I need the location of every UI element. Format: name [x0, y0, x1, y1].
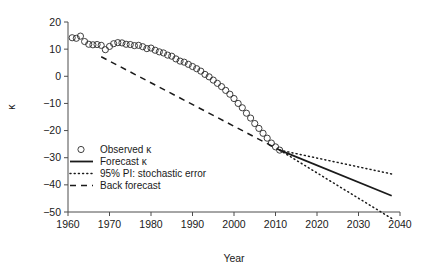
observed-point: [156, 49, 162, 55]
observed-point: [214, 80, 220, 86]
observed-point: [239, 105, 245, 111]
kappa-forecast-chart: 20100−10−20−30−40−5019601970198019902000…: [0, 0, 429, 275]
x-tick-label: 1970: [98, 218, 122, 230]
observed-point: [119, 40, 125, 46]
series-dashed-line: [101, 57, 279, 150]
legend-label: 95% PI: stochastic error: [100, 168, 207, 179]
observed-point: [135, 42, 141, 48]
x-tick-label: 1960: [56, 218, 80, 230]
y-tick-label: 20: [49, 16, 61, 28]
observed-point: [218, 84, 224, 90]
y-tick-label: 0: [55, 70, 61, 82]
legend-label: Back forecast: [100, 180, 161, 191]
series-dotted-line: [280, 150, 392, 174]
y-axis-title: κ: [5, 104, 17, 110]
x-tick-label: 1980: [139, 218, 163, 230]
chart-canvas: 20100−10−20−30−40−5019601970198019902000…: [0, 0, 429, 275]
series-dotted-line: [280, 150, 392, 218]
legend-marker-observed: [78, 146, 84, 152]
y-tick-label: −10: [43, 97, 61, 109]
y-tick-label: −50: [43, 206, 61, 218]
legend-label: Forecast κ: [100, 156, 148, 167]
x-tick-label: 2010: [264, 218, 288, 230]
x-axis-title: Year: [223, 252, 245, 264]
x-tick-label: 2020: [305, 218, 329, 230]
y-tick-label: −40: [43, 178, 61, 190]
y-tick-label: −30: [43, 151, 61, 163]
series-solid-line: [280, 150, 392, 196]
y-tick-label: 10: [49, 43, 61, 55]
legend-label: Observed κ: [100, 144, 152, 155]
observed-point: [210, 77, 216, 83]
y-tick-label: −20: [43, 124, 61, 136]
x-tick-label: 2000: [222, 218, 246, 230]
x-tick-label: 2030: [347, 218, 371, 230]
observed-point: [223, 87, 229, 93]
x-tick-label: 2040: [388, 218, 412, 230]
x-tick-label: 1990: [181, 218, 205, 230]
observed-point: [102, 47, 108, 53]
observed-point: [248, 115, 254, 121]
observed-point: [127, 41, 133, 47]
observed-point: [94, 41, 100, 47]
